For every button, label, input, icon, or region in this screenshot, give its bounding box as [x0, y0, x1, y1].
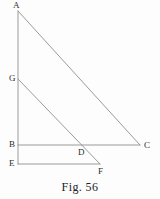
geometry-diagram [0, 0, 160, 199]
vertex-label-a: A [13, 1, 20, 10]
segment-ac [18, 11, 140, 145]
vertex-label-g: G [9, 74, 16, 83]
figure-container: A G B E D F C Fig. 56 [0, 0, 160, 199]
figure-caption: Fig. 56 [0, 180, 160, 194]
vertex-label-f: F [98, 167, 103, 176]
vertex-label-c: C [144, 141, 150, 150]
vertex-label-b: B [9, 140, 15, 149]
vertex-label-d: D [78, 148, 85, 157]
vertex-label-e: E [9, 159, 15, 168]
segments-group [18, 11, 140, 164]
segment-gf [18, 79, 100, 164]
